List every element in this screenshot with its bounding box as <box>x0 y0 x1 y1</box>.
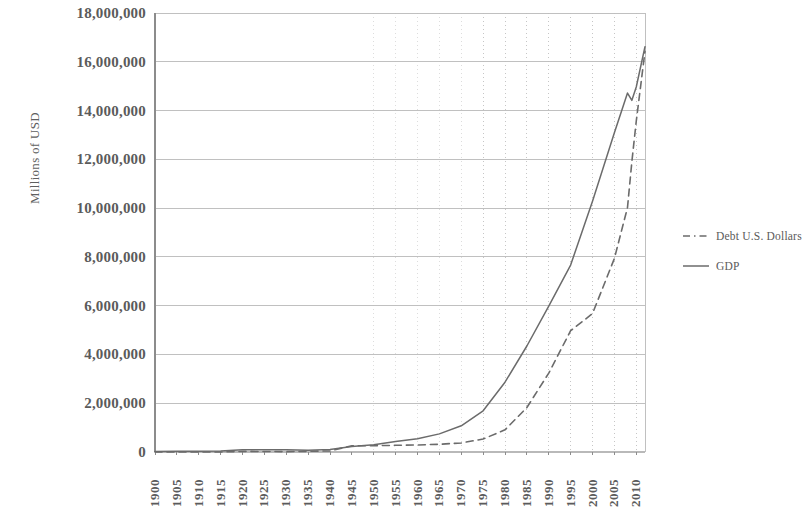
y-axis-tick: 8,000,000 <box>34 248 146 265</box>
x-axis-tick: 1900 <box>148 479 161 507</box>
x-axis-tick: 1910 <box>192 479 205 507</box>
y-axis-tick: 14,000,000 <box>34 102 146 119</box>
x-axis-tick: 1995 <box>564 479 577 507</box>
legend-item[interactable]: GDP <box>683 255 801 277</box>
x-axis-tick-labels: 1900190519101915192019251930193519401945… <box>155 455 645 507</box>
y-axis-tick: 6,000,000 <box>34 297 146 314</box>
x-axis-tick: 1970 <box>454 479 467 507</box>
y-axis-tick: 18,000,000 <box>34 5 146 22</box>
x-axis-tick: 2000 <box>586 479 599 507</box>
x-axis-tick: 1985 <box>520 479 533 507</box>
x-axis-tick: 1950 <box>367 479 380 507</box>
series-line-gdp <box>155 47 645 452</box>
x-axis-tick: 1930 <box>279 479 292 507</box>
dashed-line-icon <box>683 231 709 241</box>
y-axis-tick: 10,000,000 <box>34 200 146 217</box>
data-series-layer <box>155 13 645 452</box>
x-axis-tick: 1960 <box>411 479 424 507</box>
x-axis-tick: 2010 <box>629 479 642 507</box>
x-axis-tick: 1925 <box>257 479 270 507</box>
x-axis-tick: 1975 <box>476 479 489 507</box>
x-axis-tick: 1920 <box>236 479 249 507</box>
chart-legend: Debt U.S. DollarsGDP <box>683 225 801 285</box>
legend-label: GDP <box>716 260 740 272</box>
plot-area <box>155 13 645 452</box>
x-axis-tick: 2005 <box>607 479 620 507</box>
y-axis-tick-labels: 18,000,00016,000,00014,000,00012,000,000… <box>24 0 146 509</box>
x-axis-tick: 1980 <box>498 479 511 507</box>
y-axis-tick: 2,000,000 <box>34 395 146 412</box>
x-axis-tick: 1905 <box>170 479 183 507</box>
solid-line-icon <box>683 261 709 271</box>
x-axis-tick: 1965 <box>432 479 445 507</box>
x-axis-tick: 1940 <box>323 479 336 507</box>
x-axis-tick: 1945 <box>345 479 358 507</box>
series-line-debt-u-s-dollars <box>155 51 645 452</box>
legend-label: Debt U.S. Dollars <box>716 230 802 242</box>
x-axis-tick: 1935 <box>301 479 314 507</box>
y-axis-tick: 16,000,000 <box>34 53 146 70</box>
y-axis-tick: 0 <box>34 444 146 461</box>
gdp-debt-line-chart: Millions of USD 18,000,00016,000,00014,0… <box>0 0 803 509</box>
x-axis-tick: 1990 <box>542 479 555 507</box>
y-axis-tick: 4,000,000 <box>34 346 146 363</box>
x-axis-tick: 1955 <box>389 479 402 507</box>
x-axis-tick: 1915 <box>214 479 227 507</box>
legend-item[interactable]: Debt U.S. Dollars <box>683 225 801 247</box>
y-axis-tick: 12,000,000 <box>34 151 146 168</box>
